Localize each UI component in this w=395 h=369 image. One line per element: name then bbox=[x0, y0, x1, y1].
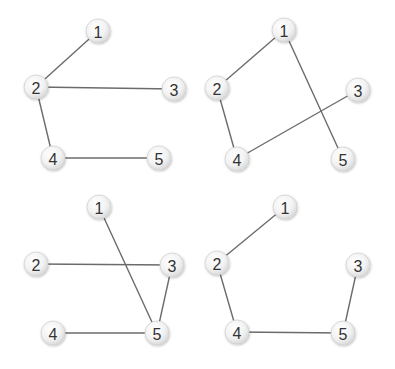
node-5: 5 bbox=[331, 321, 355, 345]
node-label: 2 bbox=[32, 257, 41, 274]
node-4: 4 bbox=[225, 147, 249, 171]
panel-top-right-nodes: 12345 bbox=[205, 18, 370, 171]
node-3: 3 bbox=[346, 253, 370, 277]
panel-bottom-left-edges bbox=[36, 207, 172, 333]
node-2: 2 bbox=[24, 75, 48, 99]
nodes-layer: 12345123451234512345 bbox=[24, 18, 370, 345]
node-label: 4 bbox=[233, 152, 242, 169]
node-label: 2 bbox=[32, 80, 41, 97]
panel-top-right-edges bbox=[217, 30, 358, 159]
node-label: 1 bbox=[95, 200, 104, 217]
node-3: 3 bbox=[346, 78, 370, 102]
node-5: 5 bbox=[331, 147, 355, 171]
node-5: 5 bbox=[145, 321, 169, 345]
panel-top-left-edges bbox=[36, 31, 174, 158]
node-1: 1 bbox=[273, 195, 297, 219]
panel-bottom-left-nodes: 12345 bbox=[24, 195, 184, 345]
node-label: 2 bbox=[213, 81, 222, 98]
edge-4-5 bbox=[237, 332, 343, 333]
node-label: 2 bbox=[213, 256, 222, 273]
node-label: 4 bbox=[49, 151, 58, 168]
node-2: 2 bbox=[205, 76, 229, 100]
node-1: 1 bbox=[272, 18, 296, 42]
node-4: 4 bbox=[41, 146, 65, 170]
node-label: 1 bbox=[94, 24, 103, 41]
graph-diagram: 12345123451234512345 bbox=[0, 0, 395, 369]
edge-2-3 bbox=[36, 264, 172, 265]
node-1: 1 bbox=[87, 195, 111, 219]
node-3: 3 bbox=[162, 77, 186, 101]
edge-1-2 bbox=[36, 31, 98, 87]
edge-1-2 bbox=[217, 30, 284, 88]
node-2: 2 bbox=[24, 252, 48, 276]
node-label: 3 bbox=[170, 82, 179, 99]
node-3: 3 bbox=[160, 253, 184, 277]
node-label: 3 bbox=[168, 258, 177, 275]
node-label: 5 bbox=[155, 151, 164, 168]
node-4: 4 bbox=[225, 320, 249, 344]
edge-1-2 bbox=[217, 207, 285, 263]
node-label: 5 bbox=[339, 152, 348, 169]
node-label: 1 bbox=[280, 23, 289, 40]
node-label: 5 bbox=[339, 326, 348, 343]
node-label: 3 bbox=[354, 258, 363, 275]
node-2: 2 bbox=[205, 251, 229, 275]
panel-top-left-nodes: 12345 bbox=[24, 19, 186, 170]
node-4: 4 bbox=[41, 321, 65, 345]
edges-layer bbox=[36, 30, 358, 333]
panel-bottom-right-edges bbox=[217, 207, 358, 333]
edge-1-5 bbox=[284, 30, 343, 159]
panel-bottom-right-nodes: 12345 bbox=[205, 195, 370, 345]
edge-1-5 bbox=[99, 207, 157, 333]
node-label: 5 bbox=[153, 326, 162, 343]
node-label: 4 bbox=[49, 326, 58, 343]
node-1: 1 bbox=[86, 19, 110, 43]
node-label: 1 bbox=[281, 200, 290, 217]
node-label: 3 bbox=[354, 83, 363, 100]
node-5: 5 bbox=[147, 146, 171, 170]
node-label: 4 bbox=[233, 325, 242, 342]
edge-2-3 bbox=[36, 87, 174, 89]
